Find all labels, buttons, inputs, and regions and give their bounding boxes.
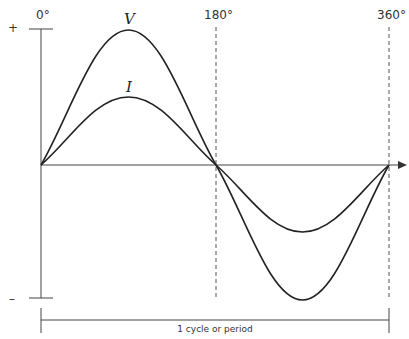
degree-360-label: 360° bbox=[377, 8, 406, 22]
sine-wave-diagram: + – 0° 180° 360° V I 1 cycle or period bbox=[0, 0, 409, 339]
voltage-label: V bbox=[124, 10, 137, 28]
arrow-right-icon bbox=[398, 161, 407, 169]
degree-180-label: 180° bbox=[204, 8, 233, 22]
degree-0-label: 0° bbox=[36, 8, 50, 22]
plus-label: + bbox=[8, 21, 18, 35]
period-label: 1 cycle or period bbox=[177, 324, 252, 334]
minus-label: – bbox=[9, 292, 15, 306]
current-label: I bbox=[125, 78, 133, 96]
